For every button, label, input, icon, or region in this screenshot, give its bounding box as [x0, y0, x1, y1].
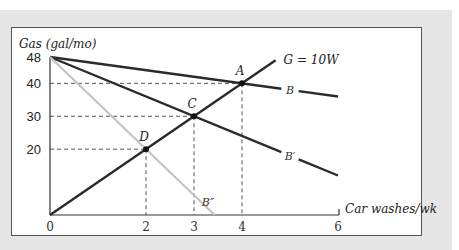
series-lines: [50, 57, 338, 215]
series-line-b-prime: [299, 159, 338, 175]
axes: 2030404802346: [27, 50, 342, 234]
x-tick-label: 6: [334, 220, 342, 234]
point-d: [143, 146, 149, 152]
series-line-b: [299, 91, 338, 96]
x-tick-label: 2: [142, 220, 150, 234]
chart-labels: Gas (gal/mo)Car washes/wkBB′B″G = 10WACD: [19, 37, 437, 216]
point-label-a: A: [235, 64, 245, 78]
point-label-d: D: [138, 130, 149, 144]
y-tick-label: 30: [27, 109, 41, 124]
series-label-b: B: [285, 84, 294, 97]
point-a: [239, 80, 245, 86]
y-tick-label: 40: [27, 76, 41, 91]
y-tick-label: 20: [27, 142, 41, 157]
series-line-b: [50, 57, 281, 89]
series-label-b-prime: B′: [284, 150, 296, 163]
x-tick-label: 0: [46, 220, 54, 234]
point-c: [191, 113, 197, 119]
y-tick-label: 48: [27, 50, 41, 65]
x-tick-label: 3: [190, 220, 198, 234]
series-label-b-double-prime: B″: [201, 196, 215, 209]
series-line-b-prime: [50, 57, 281, 152]
chart-svg: 2030404802346 Gas (gal/mo)Car washes/wkB…: [0, 0, 459, 250]
y-axis-label: Gas (gal/mo): [19, 37, 97, 51]
point-label-c: C: [187, 97, 196, 111]
series-line-b-double-prime: [50, 57, 215, 215]
series-label-g: G = 10W: [284, 53, 341, 67]
x-axis-label: Car washes/wk: [345, 202, 437, 216]
x-tick-label: 4: [238, 220, 246, 234]
